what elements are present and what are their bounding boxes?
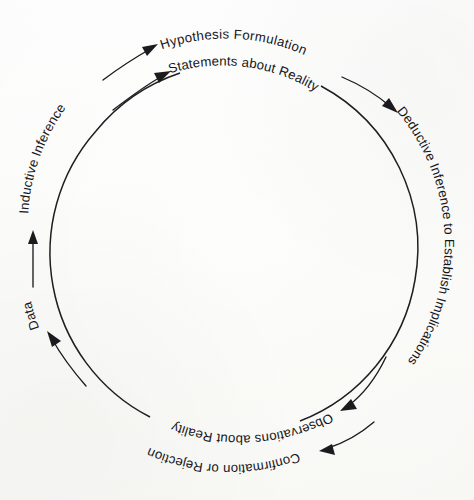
label-inductive-inference: Inductive Inference xyxy=(16,101,68,215)
cycle-diagram: Hypothesis Formulation Statements about … xyxy=(0,0,474,500)
arrow-inductive-to-hypothesis xyxy=(103,44,158,80)
label-data: Data xyxy=(19,300,42,333)
arrow-deductive-to-observations xyxy=(340,357,386,411)
arrow-data-to-inductive xyxy=(28,230,38,287)
label-statements-about-reality: Statements about Reality xyxy=(167,53,322,94)
main-circle xyxy=(50,73,418,421)
label-hypothesis-formulation: Hypothesis Formulation xyxy=(158,27,309,58)
label-deductive-inference: Deductive Inference to Establish Implica… xyxy=(394,103,456,368)
arrow-observations-to-data xyxy=(47,331,86,386)
label-confirmation-or-rejection: Confirmation or Rejection xyxy=(144,445,302,477)
diagram-page: Hypothesis Formulation Statements about … xyxy=(0,0,474,500)
arrow-statements-to-deductive xyxy=(342,77,398,113)
